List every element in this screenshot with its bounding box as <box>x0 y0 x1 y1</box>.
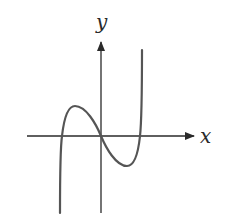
function-graph <box>0 0 229 224</box>
x-axis-label: x <box>200 126 211 146</box>
y-axis-label: y <box>96 12 107 32</box>
